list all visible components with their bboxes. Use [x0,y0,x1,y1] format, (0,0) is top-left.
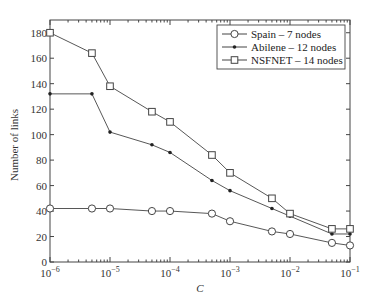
x-tick-label: 10−3 [220,265,240,279]
square-marker [287,210,294,217]
legend-entry: Spain – 7 nodes [251,28,321,40]
y-tick-label: 60 [36,180,48,192]
x-tick-label: 10−1 [340,265,360,279]
y-tick-label: 40 [36,205,48,217]
circle-marker [268,228,275,235]
dot-marker [108,130,112,134]
dot-marker [348,232,352,236]
square-marker [149,108,156,115]
legend: Spain – 7 nodesAbilene – 12 nodesNSFNET … [217,25,345,69]
dot-marker [228,189,232,193]
x-tick-label: 10−5 [100,265,120,279]
y-axis-label: Number of links [8,109,20,181]
circle-marker [346,242,353,249]
circle-marker [106,205,113,212]
circle-marker [148,207,155,214]
circle-marker [166,207,173,214]
x-tick-label: 10−4 [160,265,180,279]
y-tick-label: 100 [31,129,48,141]
dot-marker [270,207,274,211]
circle-marker [226,218,233,225]
square-marker [231,57,238,64]
square-marker [269,195,276,202]
dot-marker [210,179,214,183]
square-marker [209,152,216,159]
square-marker [167,119,174,126]
square-marker [347,226,354,233]
circle-marker [208,210,215,217]
dot-marker [233,45,237,49]
dot-marker [48,92,52,96]
circle-marker [88,205,95,212]
circle-marker [286,230,293,237]
x-tick-label: 10−2 [280,265,300,279]
square-marker [47,29,54,36]
circle-marker [231,30,238,37]
legend-entry: NSFNET – 14 nodes [251,54,343,66]
series-line [48,92,352,236]
y-tick-label: 160 [31,52,48,64]
square-marker [107,83,114,90]
dot-marker [90,92,94,96]
square-marker [329,226,336,233]
legend-entry: Abilene – 12 nodes [251,41,336,53]
circle-marker [328,239,335,246]
square-marker [227,170,234,177]
line-chart: 02040608010012014016018010−610−510−410−3… [0,0,376,306]
y-tick-label: 120 [31,103,48,115]
dot-marker [150,143,154,147]
x-tick-label: 10−6 [40,265,60,279]
y-tick-label: 80 [36,154,48,166]
series-line [46,205,353,249]
x-axis-label: C [196,282,204,294]
dot-marker [330,232,334,236]
square-marker [89,50,96,57]
circle-marker [46,205,53,212]
y-tick-label: 140 [31,78,48,90]
dot-marker [168,151,172,155]
y-tick-label: 20 [36,231,48,243]
y-tick-label: 180 [31,27,48,39]
